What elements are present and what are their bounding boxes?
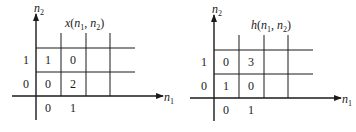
diagram-h: n2 n1 h(n1, n2) 1 0 0 1 0 3 1 0 xyxy=(190,2,352,121)
y-tick-0: 0 xyxy=(23,77,29,91)
n2-axis-label: n2 xyxy=(34,1,44,17)
x-tick-0: 0 xyxy=(45,101,51,115)
cell-value: 0 xyxy=(248,79,254,93)
cell-value: 2 xyxy=(70,77,76,91)
cell-value: 3 xyxy=(248,55,254,69)
cell-value: 0 xyxy=(70,53,76,67)
y-tick-1: 1 xyxy=(201,55,207,69)
cell-value: 1 xyxy=(45,53,51,67)
cell-value: 1 xyxy=(223,79,229,93)
n2-axis-label: n2 xyxy=(212,2,222,18)
diagram-x: n2 n1 x(n1, n2) 1 0 0 1 1 0 0 2 xyxy=(12,1,174,120)
y-tick-1: 1 xyxy=(23,53,29,67)
diagram-canvas: n2 n1 x(n1, n2) 1 0 0 1 1 0 0 2 n2 xyxy=(0,0,356,132)
plot-title: x(n1, n2) xyxy=(64,16,104,32)
n1-axis-label: n1 xyxy=(342,92,352,108)
x-tick-1: 1 xyxy=(248,103,254,117)
plot-title: h(n1, n2) xyxy=(251,18,291,34)
y-tick-0: 0 xyxy=(201,79,207,93)
x-tick-1: 1 xyxy=(70,101,76,115)
cell-value: 0 xyxy=(223,55,229,69)
x-tick-0: 0 xyxy=(223,103,229,117)
n1-axis-label: n1 xyxy=(164,90,174,106)
cell-value: 0 xyxy=(45,77,51,91)
